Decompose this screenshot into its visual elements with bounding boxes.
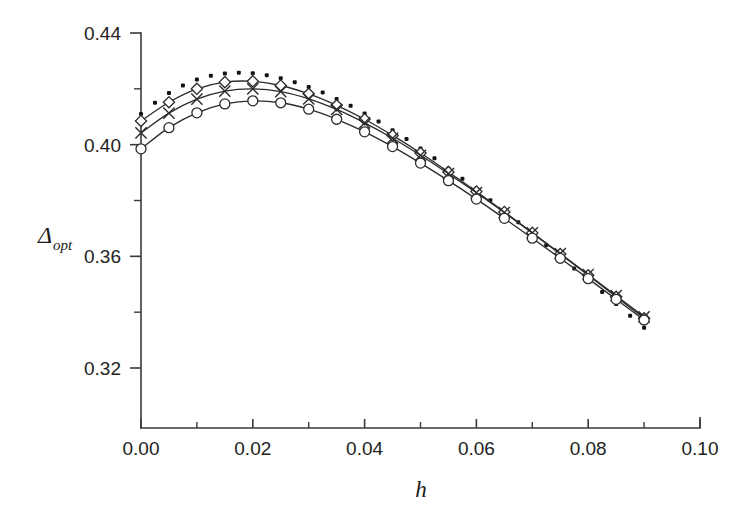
series-circle-marker-10: [416, 158, 426, 168]
series-circle-marker-16: [583, 274, 593, 284]
x-tick-label-0: 0.00: [123, 438, 160, 459]
y-axis-title: Δopt: [37, 222, 73, 253]
y-tick-label-2: 0.40: [84, 135, 121, 156]
y-tick-label-0: 0.32: [84, 358, 121, 379]
x-tick-label-4: 0.08: [570, 438, 607, 459]
series-dotted-marker-15: [349, 104, 353, 108]
series-dotted-marker-3: [181, 83, 185, 87]
series-diamond: [135, 76, 649, 324]
series-dotted-marker-5: [209, 74, 213, 78]
y-tick-label-1: 0.36: [84, 246, 121, 267]
plot-svg: 0.320.360.400.440.000.020.040.060.080.10…: [0, 0, 745, 526]
series-circle-marker-8: [360, 127, 370, 137]
series-cross-line: [141, 89, 644, 317]
y-tick-label-3: 0.44: [84, 23, 121, 44]
axis-labels: 0.320.360.400.440.000.020.040.060.080.10…: [37, 23, 718, 502]
series-cross: [135, 83, 649, 322]
series-circle-marker-12: [471, 194, 481, 204]
x-axis-title: h: [415, 477, 427, 502]
x-tick-label-5: 0.10: [682, 438, 719, 459]
x-tick-label-1: 0.02: [234, 438, 271, 459]
series-dotted-marker-19: [405, 137, 409, 141]
series-dotted-marker-1: [153, 101, 157, 105]
series-dotted-marker-9: [265, 73, 269, 77]
series-diamond-marker-2: [191, 83, 202, 94]
series-circle-marker-9: [388, 142, 398, 152]
series-circle-marker-18: [639, 315, 649, 325]
chart-figure: 0.320.360.400.440.000.020.040.060.080.10…: [0, 0, 745, 526]
y-axis-title-subscript: opt: [53, 237, 73, 253]
series-dotted-marker-21: [432, 156, 436, 160]
x-tick-label-3: 0.06: [458, 438, 495, 459]
axes: [130, 33, 700, 428]
x-tick-label-2: 0.04: [346, 438, 383, 459]
series-dotted-marker-36: [642, 326, 646, 330]
series-circle-marker-5: [276, 98, 286, 108]
series-circle-marker-2: [192, 108, 202, 118]
series-dotted-marker-17: [377, 120, 381, 124]
series-dotted-marker-11: [293, 80, 297, 84]
series-circle-marker-14: [527, 233, 537, 243]
series-circle-marker-3: [220, 99, 230, 109]
series-circle-marker-6: [304, 104, 314, 114]
series-circle-marker-4: [248, 96, 258, 106]
series-diamond-marker-0: [135, 115, 146, 126]
series-dotted-marker-4: [195, 78, 199, 82]
series-diamond-marker-3: [219, 77, 230, 88]
series-diamond-line: [141, 81, 644, 318]
series-dotted: [139, 71, 646, 330]
series-circle-marker-15: [555, 253, 565, 263]
series-circle-marker-13: [499, 213, 509, 223]
series-dotted-marker-6: [223, 71, 227, 75]
series-dotted-marker-13: [321, 90, 325, 94]
series-circle-marker-0: [136, 144, 146, 154]
series-circle-marker-17: [611, 294, 621, 304]
series-cross-marker-1: [163, 108, 174, 119]
series-dotted-marker-7: [237, 71, 241, 75]
series-diamond-marker-1: [163, 97, 174, 108]
series-circle-marker-11: [443, 176, 453, 186]
series-circle-marker-7: [332, 114, 342, 124]
series-diamond-marker-5: [275, 80, 286, 91]
series-dotted-marker-8: [251, 71, 255, 75]
data-series: [135, 71, 649, 330]
series-dotted-marker-2: [167, 91, 171, 95]
series-circle-marker-1: [164, 123, 174, 133]
series-dotted-marker-35: [628, 314, 632, 318]
